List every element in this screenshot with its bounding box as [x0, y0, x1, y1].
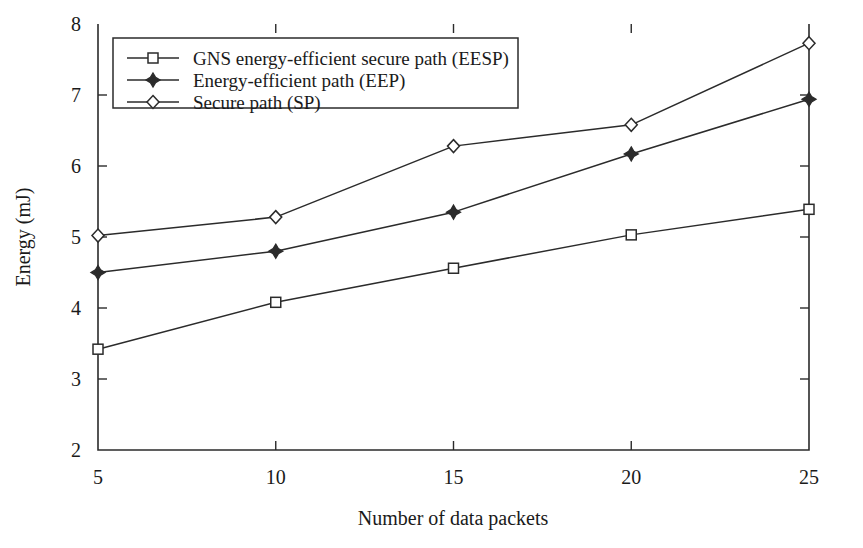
y-tick-label: 3 — [71, 368, 81, 390]
line-chart: 2345678 510152025 Energy (mJ) Number of … — [0, 0, 863, 548]
data-point-marker — [148, 53, 158, 63]
chart-figure: 2345678 510152025 Energy (mJ) Number of … — [0, 0, 863, 548]
y-tick-label: 5 — [71, 226, 81, 248]
chart-legend: GNS energy-efficient secure path (EESP)E… — [113, 38, 518, 114]
data-point-marker — [449, 263, 459, 273]
data-point-marker — [271, 297, 281, 307]
x-tick-label: 20 — [621, 466, 641, 488]
legend-item-label: Energy-efficient path (EEP) — [193, 70, 405, 92]
legend-item-label: Secure path (SP) — [193, 92, 321, 114]
y-tick-label: 4 — [71, 297, 81, 319]
x-tick-label: 25 — [799, 466, 819, 488]
y-tick-label: 6 — [71, 155, 81, 177]
x-tick-label: 10 — [266, 466, 286, 488]
x-tick-label: 15 — [444, 466, 464, 488]
x-axis-title: Number of data packets — [358, 507, 549, 530]
x-tick-label: 5 — [93, 466, 103, 488]
data-point-marker — [93, 344, 103, 354]
legend-item-label: GNS energy-efficient secure path (EESP) — [193, 48, 509, 70]
y-tick-label: 2 — [71, 439, 81, 461]
y-tick-label: 7 — [71, 84, 81, 106]
data-point-marker — [626, 230, 636, 240]
data-point-marker — [804, 204, 814, 214]
y-tick-label: 8 — [71, 13, 81, 35]
y-axis-title: Energy (mJ) — [12, 187, 35, 286]
